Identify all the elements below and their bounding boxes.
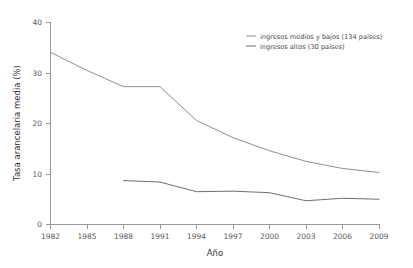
x-tick-label-2009: 2009 [369, 232, 388, 241]
y-tick-label-10: 10 [32, 170, 42, 179]
x-tick-label-2006: 2006 [333, 232, 352, 241]
line-chart: 40 30 20 10 0 1982 1985 1988 1991 1994 1… [0, 0, 413, 268]
y-tick-label-20: 20 [32, 119, 42, 128]
y-tick-label-30: 30 [32, 69, 42, 78]
chart-container: 40 30 20 10 0 1982 1985 1988 1991 1994 1… [0, 0, 413, 268]
x-tick-label-1988: 1988 [114, 232, 133, 241]
x-axis-title: Año [207, 248, 223, 258]
x-tick-label-1991: 1991 [150, 232, 169, 241]
series-line-low-middle-income [51, 52, 380, 172]
y-tick-label-40: 40 [32, 18, 42, 27]
series-line-high-income [124, 181, 380, 201]
legend-label-high-income: ingresos altos (30 países) [260, 43, 344, 51]
legend: ingresos medios y bajos (134 países) ing… [246, 33, 382, 51]
legend-label-low-middle-income: ingresos medios y bajos (134 países) [260, 33, 382, 41]
y-tick-label-0: 0 [37, 220, 42, 229]
x-tick-label-1985: 1985 [77, 232, 96, 241]
x-tick-label-1997: 1997 [223, 232, 242, 241]
x-tick-label-2003: 2003 [296, 232, 315, 241]
x-tick-label-1994: 1994 [187, 232, 206, 241]
x-tick-label-1982: 1982 [41, 232, 60, 241]
y-axis-title: Tasa arancelaria media (%) [12, 65, 22, 182]
x-tick-label-2000: 2000 [260, 232, 279, 241]
